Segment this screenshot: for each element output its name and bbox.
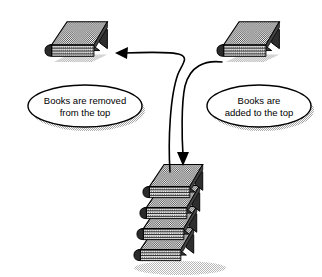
stack-of-books-diagram: Books are removed from the top Books are… bbox=[0, 0, 322, 277]
top-right-book bbox=[217, 22, 279, 62]
callout-removed-line-2: from the top bbox=[60, 107, 111, 118]
callout-books-removed: Books are removed from the top bbox=[28, 85, 145, 131]
book-stack bbox=[134, 165, 226, 275]
callout-books-added: Books are added to the top bbox=[207, 85, 314, 131]
diagram-canvas: Books are removed from the top Books are… bbox=[0, 0, 322, 277]
callout-added-line-2: added to the top bbox=[225, 107, 294, 118]
callout-added-line-1: Books are bbox=[238, 95, 281, 106]
callout-removed-line-1: Books are removed bbox=[44, 95, 126, 106]
top-left-book bbox=[45, 22, 107, 62]
